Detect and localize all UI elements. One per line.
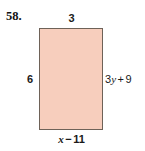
rectangle-shape (39, 28, 103, 130)
left-side-label: 6 (0, 73, 36, 86)
top-side-label: 3 (0, 12, 143, 25)
bottom-variable: x (58, 133, 64, 145)
right-constant: 9 (125, 73, 131, 85)
bottom-side-label: x−11 (0, 133, 143, 146)
figure-container: 58. 3 6 3y+9 x−11 (0, 0, 145, 151)
bottom-constant: 11 (73, 133, 85, 145)
bottom-operator: − (64, 133, 73, 145)
right-side-label: 3y+9 (105, 73, 132, 86)
